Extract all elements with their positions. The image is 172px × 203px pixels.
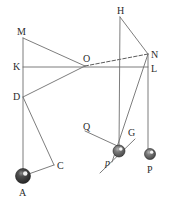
ball-A-body xyxy=(16,169,31,184)
line-H-p xyxy=(119,17,120,151)
line-H-N xyxy=(120,17,148,54)
ball-p xyxy=(113,145,125,157)
segments-layer xyxy=(23,17,148,176)
line-D-C xyxy=(23,97,54,165)
ball-p-body xyxy=(113,145,125,157)
point-label-L: L xyxy=(151,64,157,74)
point-label-P: P xyxy=(147,165,153,175)
ball-A xyxy=(16,169,31,184)
point-label-H: H xyxy=(117,6,124,16)
point-label-p: p xyxy=(105,158,110,168)
point-label-M: M xyxy=(17,27,26,37)
geometry-diagram: MKDACOHNLQGpP xyxy=(0,0,172,203)
point-label-G: G xyxy=(128,128,135,138)
line-D-O xyxy=(23,66,85,97)
ball-P-highlight xyxy=(150,150,153,153)
point-label-D: D xyxy=(13,92,20,102)
line-O-N xyxy=(85,54,148,66)
point-label-O: O xyxy=(83,54,90,64)
point-label-K: K xyxy=(13,62,20,72)
ball-P-body xyxy=(145,149,156,160)
point-label-A: A xyxy=(19,188,26,198)
ball-p-highlight xyxy=(119,147,123,151)
ball-A-highlight xyxy=(23,171,28,176)
point-label-C: C xyxy=(57,161,64,171)
balls-layer xyxy=(16,145,156,184)
point-label-N: N xyxy=(151,50,158,60)
ball-P xyxy=(145,149,156,160)
line-M-O xyxy=(23,38,85,66)
point-label-Q: Q xyxy=(83,122,90,132)
